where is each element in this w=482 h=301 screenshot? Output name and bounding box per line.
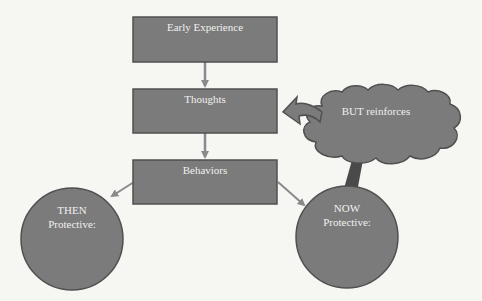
- label-then: THEN: [22, 203, 122, 217]
- label-thoughts: Thoughts: [133, 92, 277, 106]
- arrow-behaviors-to-then: [112, 182, 134, 196]
- cloud-but-reinforces: [304, 84, 461, 163]
- label-now: NOW: [297, 201, 397, 215]
- diagram-canvas: [0, 0, 482, 301]
- label-then-protective: Protective:: [22, 217, 122, 231]
- label-early-experience: Early Experience: [133, 20, 277, 34]
- label-now-protective: Protective:: [297, 215, 397, 229]
- label-but-reinforces: BUT reinforces: [326, 104, 426, 118]
- label-behaviors: Behaviors: [133, 163, 277, 177]
